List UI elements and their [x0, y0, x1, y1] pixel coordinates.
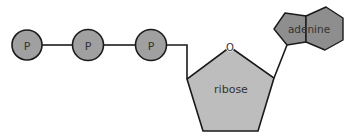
ring-oxygen-label: O — [226, 42, 234, 53]
phosphate-1: P — [12, 30, 42, 60]
adenine-label: adenine — [288, 23, 330, 35]
ribose-ring: O ribose — [187, 42, 274, 131]
adenine-ring: adenine — [274, 7, 343, 50]
bond-p3-ribose — [166, 45, 187, 79]
phosphate-3: P — [136, 30, 167, 61]
ribose-label: ribose — [214, 83, 248, 96]
bond-ribose-adenine — [274, 45, 287, 78]
atp-structure-diagram: P P P O ribose adenine — [0, 0, 353, 140]
phosphate-label: P — [85, 40, 92, 53]
phosphate-label: P — [24, 40, 31, 53]
phosphate-2: P — [73, 30, 104, 61]
phosphate-label: P — [148, 40, 155, 53]
